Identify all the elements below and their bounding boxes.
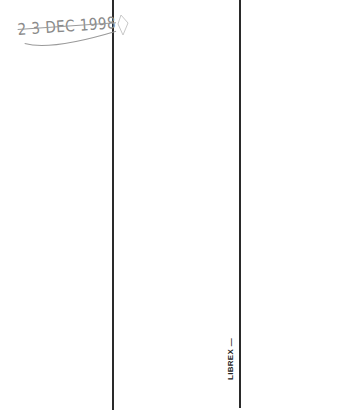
left-margin-rule <box>112 0 114 410</box>
right-margin-rule <box>239 0 241 408</box>
faint-diamond-mark-icon <box>117 14 129 36</box>
document-page: 2 3 DEC 1998 LIBREX — <box>0 0 342 418</box>
date-stamp: 2 3 DEC 1998 <box>17 11 119 50</box>
librex-vertical-label: LIBREX — <box>226 338 235 380</box>
